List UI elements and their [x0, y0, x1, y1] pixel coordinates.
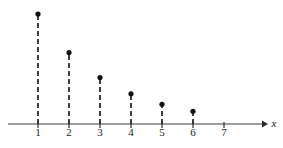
- stem-plot-figure: 1234567 x: [0, 0, 283, 148]
- data-point-x2: [66, 50, 71, 55]
- x-tick-label-1: 1: [35, 126, 41, 138]
- x-tick-label-5: 5: [159, 126, 165, 138]
- x-axis-label: x: [271, 117, 277, 129]
- data-point-x3: [97, 75, 102, 80]
- data-point-x4: [128, 91, 133, 96]
- data-point-x5: [159, 102, 164, 107]
- x-tick-label-3: 3: [97, 126, 103, 138]
- stem-plot-svg: 1234567 x: [0, 0, 283, 148]
- x-tick-label-4: 4: [128, 126, 134, 138]
- x-tick-label-6: 6: [190, 126, 196, 138]
- plot-background: [0, 0, 283, 148]
- x-tick-label-2: 2: [66, 126, 72, 138]
- x-tick-label-7: 7: [221, 126, 227, 138]
- data-point-x1: [35, 11, 40, 16]
- data-point-x6: [190, 109, 195, 114]
